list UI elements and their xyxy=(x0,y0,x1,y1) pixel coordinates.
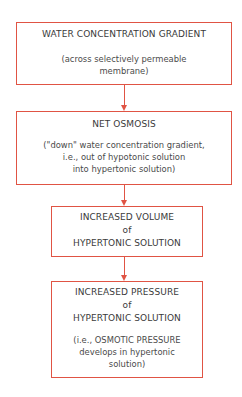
node-title: INCREASED VOLUME of HYPERTONIC SOLUTION xyxy=(52,211,202,250)
node-title: WATER CONCENTRATION GRADIENT xyxy=(17,28,231,41)
flow-node-increased-volume: INCREASED VOLUME of HYPERTONIC SOLUTION xyxy=(51,206,203,257)
node-title: NET OSMOSIS xyxy=(17,118,231,131)
flow-node-increased-pressure: INCREASED PRESSURE of HYPERTONIC SOLUTIO… xyxy=(51,281,203,378)
flow-node-net-osmosis: NET OSMOSIS ("down" water concentration … xyxy=(16,111,232,185)
flow-node-water-concentration-gradient: WATER CONCENTRATION GRADIENT (across sel… xyxy=(16,22,232,85)
node-note: ("down" water concentration gradient, i.… xyxy=(17,139,231,175)
connector-line-2 xyxy=(124,185,125,201)
connector-line-1 xyxy=(124,85,125,106)
node-note: (i.e., OSMOTIC PRESSURE develops in hype… xyxy=(52,334,202,370)
connector-line-3 xyxy=(124,257,125,276)
node-title: INCREASED PRESSURE of HYPERTONIC SOLUTIO… xyxy=(52,286,202,325)
node-note: (across selectively permeable membrane) xyxy=(17,53,231,77)
